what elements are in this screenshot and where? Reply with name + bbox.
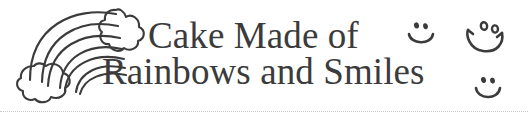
headline-line-2: Rainbows and Smiles bbox=[102, 54, 470, 90]
smiley-face-large-top-icon bbox=[464, 20, 508, 56]
cake-banner: Cake Made of Rainbows and Smiles bbox=[0, 0, 528, 118]
smiley-face-small-top-icon bbox=[404, 21, 438, 49]
bottom-divider bbox=[0, 111, 528, 113]
smiley-face-small-bottom-icon bbox=[472, 75, 506, 105]
